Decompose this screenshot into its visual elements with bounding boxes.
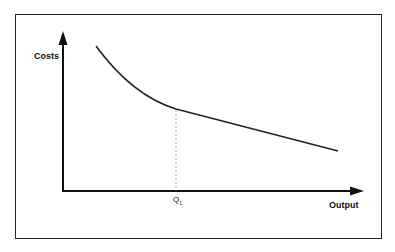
- chart-frame: [16, 15, 382, 239]
- cost-curve: [96, 46, 338, 151]
- y-axis-label: Costs: [34, 51, 59, 61]
- y-axis-arrow-icon: [59, 31, 68, 45]
- x-axis-arrow-icon: [350, 187, 364, 196]
- q1-tick-label: Q1: [173, 195, 182, 206]
- q1-subscript: 1: [179, 200, 182, 206]
- chart-canvas: [0, 0, 395, 252]
- x-axis-label: Output: [329, 200, 359, 210]
